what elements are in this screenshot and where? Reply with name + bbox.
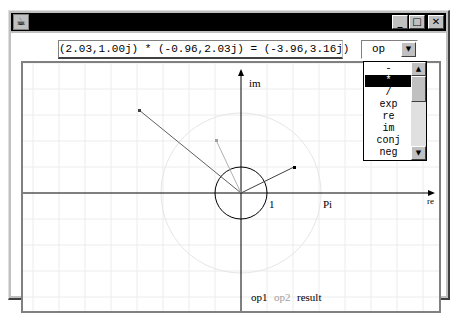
dropdown-item-im[interactable]: im (365, 123, 412, 135)
result-point (138, 109, 141, 112)
java-coffee-cup-icon[interactable]: ☕ (13, 14, 29, 30)
im-axis-label: im (249, 77, 261, 89)
op1-point (293, 166, 296, 169)
re-axis-label: re (427, 196, 434, 206)
dropdown-item-conj[interactable]: conj (365, 135, 412, 147)
close-button[interactable]: ✕ (428, 15, 444, 29)
minimize-button[interactable]: _ (392, 15, 408, 29)
result-vector (139, 110, 241, 193)
chevron-down-icon[interactable]: ▼ (401, 42, 416, 57)
client-area: (2.03,1.00j) * (-0.96,2.03j) = (-3.96,3.… (11, 33, 446, 296)
op2-point (215, 139, 218, 142)
dropdown-item-multiply[interactable]: * (365, 75, 412, 87)
dropdown-item-neg[interactable]: neg (365, 147, 412, 159)
imaginary-axis-arrow-icon (238, 69, 244, 76)
scroll-up-icon[interactable]: ▲ (411, 62, 426, 76)
title-bar[interactable]: ☕ _ □ ✕ (11, 13, 446, 31)
expression-field[interactable]: (2.03,1.00j) * (-0.96,2.03j) = (-3.96,3.… (58, 40, 343, 59)
scroll-down-icon[interactable]: ▼ (411, 146, 426, 160)
legend-result: result (297, 291, 321, 303)
operator-select-value: op (372, 43, 385, 55)
dropdown-scrollbar[interactable]: ▲ ▼ (411, 62, 426, 160)
pi-label: Pi (323, 198, 332, 210)
operator-select[interactable]: op ▼ (361, 40, 418, 59)
dropdown-item-minus[interactable]: - (365, 63, 412, 75)
dropdown-item-divide[interactable]: / (365, 87, 412, 99)
app-window: ☕ _ □ ✕ (2.03,1.00j) * (-0.96,2.03j) = (… (8, 10, 450, 300)
legend-op2: op2 (274, 291, 291, 303)
dropdown-item-exp[interactable]: exp (365, 99, 412, 111)
legend-op1: op1 (251, 291, 268, 303)
maximize-button[interactable]: □ (409, 15, 425, 29)
operator-dropdown-list[interactable]: - * / exp re im conj neg ▲ ▼ (363, 61, 427, 161)
unit-label: 1 (269, 198, 275, 210)
dropdown-item-re[interactable]: re (365, 111, 412, 123)
scrollbar-thumb[interactable] (411, 76, 426, 102)
